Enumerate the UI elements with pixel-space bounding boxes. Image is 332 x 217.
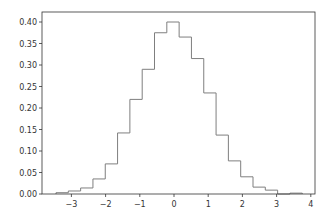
- y-axis: 0.000.050.100.150.200.250.300.350.40: [19, 18, 42, 199]
- histogram-step-line: [56, 22, 302, 194]
- y-tick-label: 0.05: [19, 169, 37, 178]
- x-tick-label: −2: [100, 200, 112, 209]
- x-tick-label: −3: [66, 200, 78, 209]
- x-tick-label: 1: [206, 200, 211, 209]
- x-tick-label: 0: [171, 200, 176, 209]
- x-tick-label: 2: [240, 200, 245, 209]
- y-tick-label: 0.15: [19, 126, 37, 135]
- x-tick-label: −1: [134, 200, 146, 209]
- y-tick-label: 0.10: [19, 147, 37, 156]
- y-tick-label: 0.35: [19, 40, 37, 49]
- x-tick-label: 4: [308, 200, 313, 209]
- y-tick-label: 0.00: [19, 190, 37, 199]
- plot-area: [56, 22, 302, 194]
- y-tick-label: 0.20: [19, 104, 37, 113]
- histogram-chart: −3−2−101234 0.000.050.100.150.200.250.30…: [0, 0, 332, 217]
- y-tick-label: 0.40: [19, 18, 37, 27]
- x-tick-label: 3: [274, 200, 279, 209]
- y-tick-label: 0.25: [19, 83, 37, 92]
- x-axis: −3−2−101234: [66, 194, 314, 209]
- y-tick-label: 0.30: [19, 61, 37, 70]
- axes-frame: [42, 12, 315, 194]
